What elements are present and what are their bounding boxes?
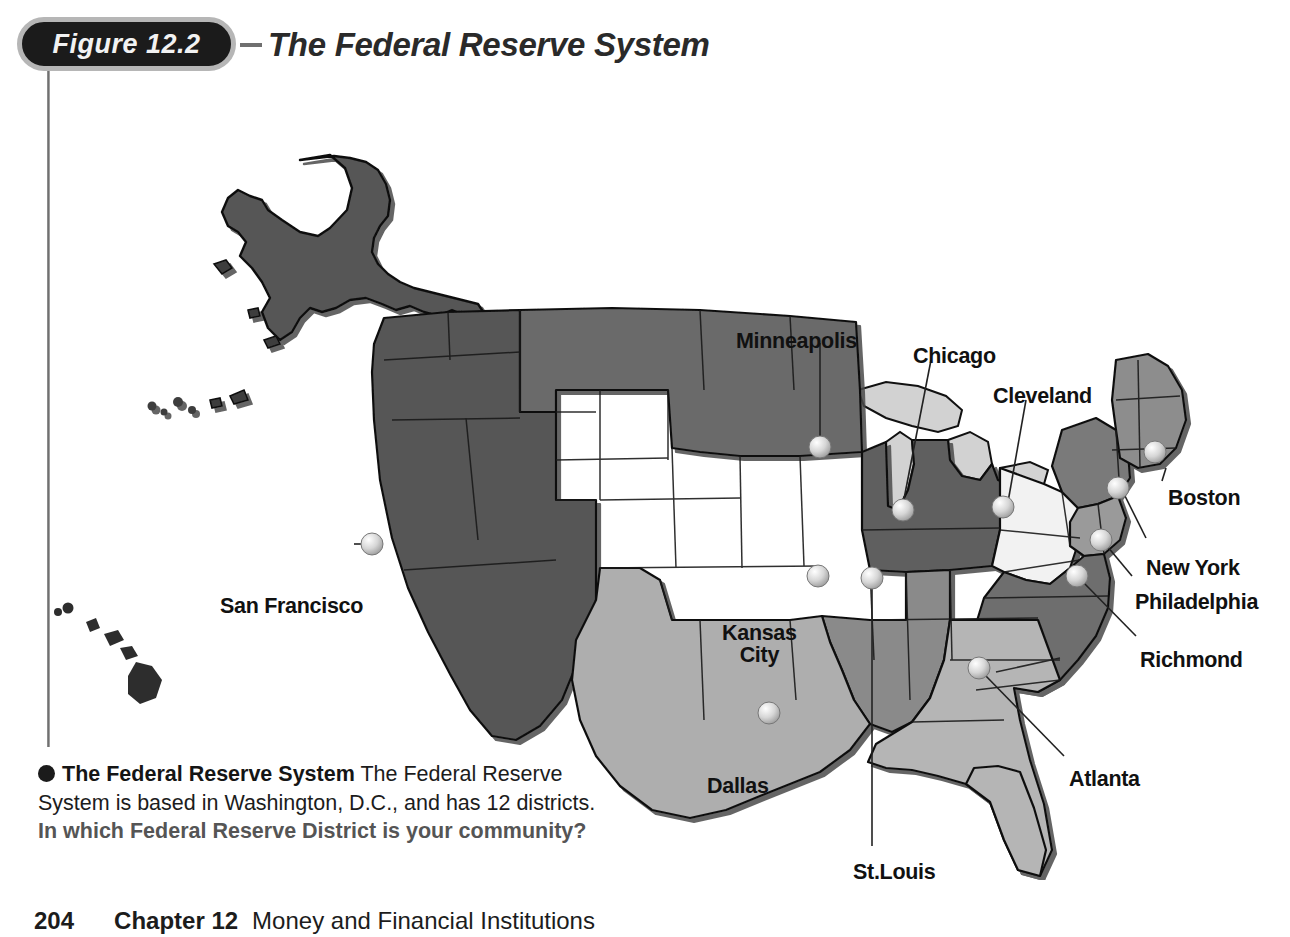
- map-graphic: [0, 60, 1290, 880]
- marker-minneapolis: [809, 436, 831, 458]
- chapter-label: Chapter 12: [114, 907, 238, 934]
- page-footer: 204Chapter 12Money and Financial Institu…: [34, 907, 595, 935]
- city-label-new-york: New York: [1146, 557, 1240, 579]
- city-label-st-louis: St.Louis: [853, 861, 935, 883]
- marker-cleveland: [992, 496, 1014, 518]
- marker-chicago: [892, 499, 914, 521]
- marker-san-francisco: [361, 533, 383, 555]
- city-label-kansas-city: Kansas City: [722, 622, 797, 667]
- city-label-san-francisco: San Francisco: [220, 595, 363, 617]
- leader-boston: [1162, 468, 1166, 481]
- city-label-cleveland: Cleveland: [993, 385, 1092, 407]
- marker-atlanta: [968, 657, 990, 679]
- city-label-minneapolis: Minneapolis: [736, 330, 857, 352]
- marker-kansas-city: [807, 565, 829, 587]
- federal-reserve-district-map: Minneapolis Chicago Cleveland Boston New…: [0, 60, 1290, 880]
- caption-lead: The Federal Reserve System: [62, 762, 355, 786]
- hawaii-inset: [54, 603, 162, 705]
- city-label-richmond: Richmond: [1140, 649, 1243, 671]
- figure-title: The Federal Reserve System: [268, 26, 710, 64]
- marker-st-louis: [861, 567, 883, 589]
- leader-philadelphia: [1107, 546, 1132, 576]
- page-number: 204: [34, 907, 74, 934]
- figure-title-dash: [240, 43, 262, 47]
- city-label-atlanta: Atlanta: [1069, 768, 1140, 790]
- city-label-philadelphia: Philadelphia: [1135, 591, 1258, 613]
- marker-richmond: [1066, 565, 1088, 587]
- caption-question: In which Federal Reserve District is you…: [38, 819, 586, 843]
- caption-bullet-icon: [38, 765, 55, 782]
- figure-number-label: Figure 12.2: [52, 31, 200, 58]
- marker-boston: [1144, 441, 1166, 463]
- city-label-dallas: Dallas: [707, 775, 769, 797]
- chapter-subject: Money and Financial Institutions: [252, 907, 595, 934]
- city-label-boston: Boston: [1168, 487, 1240, 509]
- marker-philadelphia: [1090, 529, 1112, 551]
- figure-caption: The Federal Reserve System The Federal R…: [38, 760, 618, 846]
- leader-new-york: [1124, 494, 1146, 538]
- marker-new-york: [1107, 477, 1129, 499]
- marker-dallas: [758, 702, 780, 724]
- city-label-chicago: Chicago: [913, 345, 996, 367]
